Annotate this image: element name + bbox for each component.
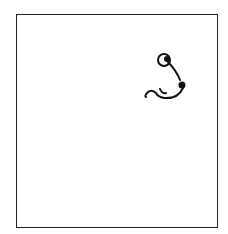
sketch-icon [0,0,228,234]
